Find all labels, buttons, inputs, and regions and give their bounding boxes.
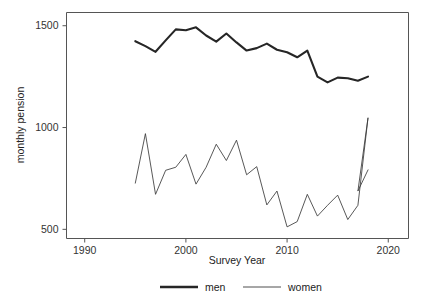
y-tick-label: 1500 <box>35 19 59 31</box>
x-axis-title: Survey Year <box>209 254 266 266</box>
legend-label-men: men <box>205 281 226 293</box>
legend-label-women: women <box>287 281 322 293</box>
x-tick-label: 2020 <box>377 244 401 256</box>
y-tick-label: 1000 <box>35 121 59 133</box>
y-tick-label: 500 <box>41 223 59 235</box>
x-tick-label: 1990 <box>73 244 97 256</box>
x-tick-label: 2000 <box>174 244 198 256</box>
chart-figure: 50010001500 1990200020102020 Survey Year… <box>0 0 437 302</box>
y-axis-title: monthly pension <box>14 87 26 164</box>
line-chart: 50010001500 1990200020102020 Survey Year… <box>0 0 437 302</box>
x-tick-label: 2010 <box>275 244 299 256</box>
